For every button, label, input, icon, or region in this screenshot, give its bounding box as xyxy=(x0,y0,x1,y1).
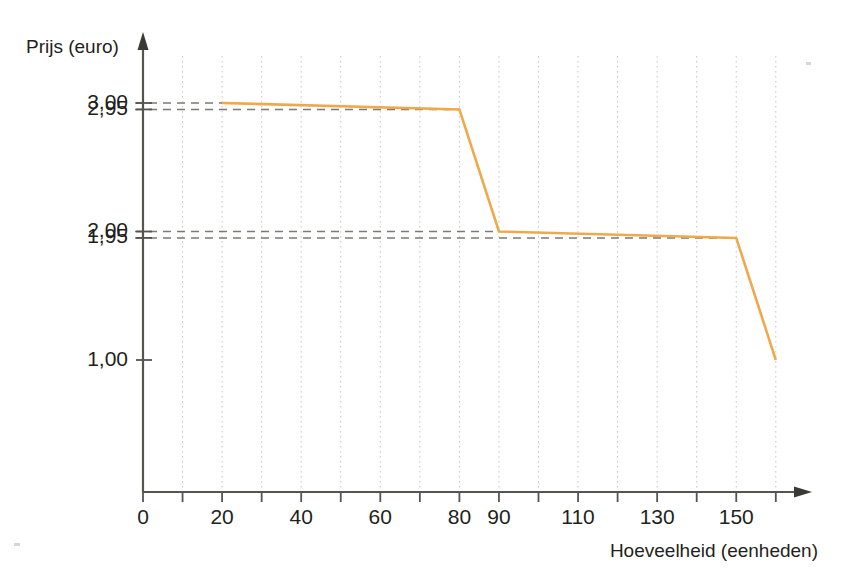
x-axis-tick-labels: 02040608090110130150 xyxy=(137,505,754,528)
x-axis-title: Hoeveelheid (eenheden) xyxy=(610,540,818,561)
reference-lines xyxy=(135,103,736,238)
paper-speck xyxy=(806,62,811,65)
x-axis-ticks xyxy=(143,492,776,502)
gridlines-vertical xyxy=(183,56,776,492)
y-axis-tick-labels: 3,002,952,001,951,00 xyxy=(87,90,128,370)
x-tick-label: 110 xyxy=(561,505,594,528)
x-tick-label: 80 xyxy=(448,505,471,528)
y-tick-label: 1,95 xyxy=(87,224,128,247)
y-tick-label: 1,00 xyxy=(87,347,128,370)
x-tick-label: 40 xyxy=(290,505,313,528)
x-axis-arrowhead xyxy=(794,487,812,498)
x-tick-label: 20 xyxy=(210,505,233,528)
paper-speck xyxy=(14,543,20,546)
x-tick-label: 0 xyxy=(137,505,149,528)
price-quantity-chart: 02040608090110130150 3,002,952,001,951,0… xyxy=(0,0,847,587)
y-axis-arrowhead xyxy=(138,32,149,50)
chart-svg: 02040608090110130150 3,002,952,001,951,0… xyxy=(0,0,847,587)
y-tick-label: 2,95 xyxy=(87,96,128,119)
x-tick-label: 130 xyxy=(640,505,675,528)
y-axis-title: Prijs (euro) xyxy=(26,36,119,57)
x-tick-label: 60 xyxy=(369,505,392,528)
x-tick-label: 90 xyxy=(487,505,510,528)
x-tick-label: 150 xyxy=(719,505,754,528)
